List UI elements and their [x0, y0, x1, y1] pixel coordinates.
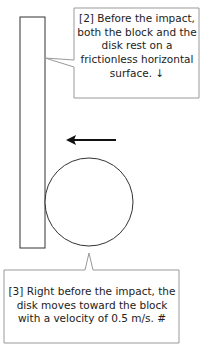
callout-text-2: [2] Before the impact, both the block an… [76, 12, 198, 80]
callout-text-3: [3] Right before the impact, the disk mo… [6, 285, 178, 326]
block [20, 17, 45, 248]
disk [45, 158, 133, 246]
velocity-arrow-icon [66, 135, 116, 145]
